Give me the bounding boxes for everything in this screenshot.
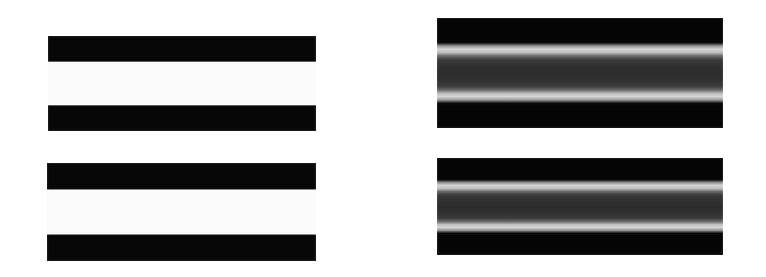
scan-texture-overlay-bottom-left — [47, 163, 316, 261]
edge-soften-top-right — [437, 18, 723, 128]
stimulus-panel-top-left — [48, 36, 316, 131]
scan-texture-overlay-top-left — [48, 36, 316, 131]
scan-texture-overlay-top-right — [437, 18, 723, 128]
edge-soften-bottom-left — [47, 163, 316, 261]
scan-texture-overlay-bottom-right — [437, 158, 723, 255]
stimulus-panel-bottom-left — [47, 163, 316, 261]
edge-soften-top-left — [48, 36, 316, 131]
stimulus-panel-top-right — [437, 18, 723, 128]
figure-canvas — [0, 0, 766, 277]
stimulus-panel-bottom-right — [437, 158, 723, 255]
edge-soften-bottom-right — [437, 158, 723, 255]
